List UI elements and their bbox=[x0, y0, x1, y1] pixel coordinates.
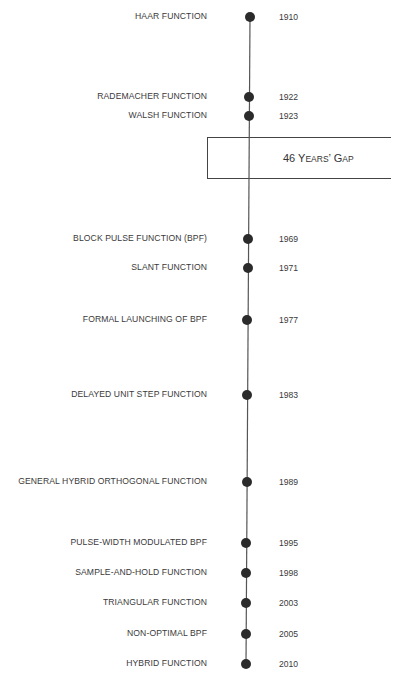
event-label: HYBRID FUNCTION bbox=[126, 658, 207, 668]
event-label: NON-OPTIMAL BPF bbox=[127, 628, 207, 638]
event-dot bbox=[241, 629, 251, 639]
gap-gap-initial: G bbox=[334, 152, 343, 164]
event-dot bbox=[242, 315, 252, 325]
event-label: BLOCK PULSE FUNCTION (BPF) bbox=[73, 233, 207, 243]
timeline-diagram: 46 YEARS’ GAP HAAR FUNCTION 1910 RADEMAC… bbox=[0, 0, 407, 686]
event-dot bbox=[244, 92, 254, 102]
event-label: RADEMACHER FUNCTION bbox=[97, 91, 207, 101]
event-year: 1969 bbox=[279, 234, 298, 244]
event-year: 1995 bbox=[279, 538, 298, 548]
gap-gap-rest: AP bbox=[342, 154, 353, 164]
event-dot bbox=[242, 390, 252, 400]
event-label: PULSE-WIDTH MODULATED BPF bbox=[70, 537, 207, 547]
event-dot bbox=[244, 111, 254, 121]
event-label: TRIANGULAR FUNCTION bbox=[103, 597, 207, 607]
event-label: DELAYED UNIT STEP FUNCTION bbox=[71, 389, 207, 399]
gap-word-years: YEARS’ bbox=[298, 152, 331, 164]
event-label: HAAR FUNCTION bbox=[135, 11, 207, 21]
event-year: 1923 bbox=[279, 111, 298, 121]
event-dot bbox=[245, 12, 255, 22]
event-year: 1910 bbox=[279, 12, 298, 22]
event-dot bbox=[241, 598, 251, 608]
event-dot bbox=[241, 659, 251, 669]
event-year: 2005 bbox=[279, 629, 298, 639]
gap-label: 46 YEARS’ GAP bbox=[283, 152, 354, 165]
gap-word-gap: GAP bbox=[334, 152, 354, 164]
gap-apostrophe: ’ bbox=[329, 152, 331, 164]
event-year: 1998 bbox=[279, 568, 298, 578]
event-dot bbox=[241, 568, 251, 578]
event-dot bbox=[241, 538, 251, 548]
event-dot bbox=[243, 263, 253, 273]
gap-years-rest: EARS bbox=[305, 154, 328, 164]
gap-number: 46 bbox=[283, 152, 295, 164]
event-year: 1989 bbox=[279, 477, 298, 487]
event-year: 1922 bbox=[279, 92, 298, 102]
event-label: SLANT FUNCTION bbox=[131, 262, 207, 272]
event-label: WALSH FUNCTION bbox=[129, 110, 207, 120]
event-dot bbox=[242, 477, 252, 487]
event-year: 2010 bbox=[279, 659, 298, 669]
event-label: SAMPLE-AND-HOLD FUNCTION bbox=[75, 567, 207, 577]
event-year: 1971 bbox=[279, 263, 298, 273]
timeline-graphic bbox=[0, 0, 407, 686]
event-label: FORMAL LAUNCHING OF BPF bbox=[83, 314, 207, 324]
event-year: 2003 bbox=[279, 598, 298, 608]
event-year: 1977 bbox=[279, 315, 298, 325]
event-dot bbox=[243, 234, 253, 244]
event-label: GENERAL HYBRID ORTHOGONAL FUNCTION bbox=[18, 476, 207, 486]
event-year: 1983 bbox=[279, 390, 298, 400]
